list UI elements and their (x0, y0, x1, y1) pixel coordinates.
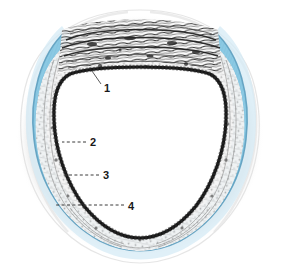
label-4: 4 (128, 200, 135, 212)
label-1: 1 (104, 82, 110, 94)
label-3: 3 (103, 169, 109, 181)
label-2: 2 (90, 136, 96, 148)
figure-root: 1 2 3 4 (0, 0, 281, 265)
cross-section-illustration: 1 2 3 4 (0, 0, 281, 265)
